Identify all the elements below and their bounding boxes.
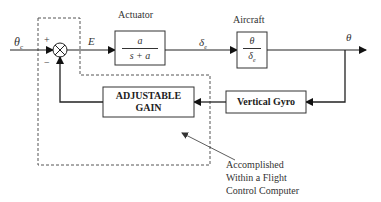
- input-theta-c-label: θc: [14, 36, 23, 51]
- aircraft-numerator: θ: [237, 36, 267, 46]
- actuator-transfer-function: a s + a: [115, 36, 165, 61]
- vertical-gyro-label: Vertical Gyro: [226, 96, 306, 108]
- actuator-title: Actuator: [118, 10, 153, 20]
- minus-sign: −: [44, 58, 50, 68]
- summing-junction: [53, 43, 67, 57]
- feedback-to-junction-line: [60, 57, 103, 102]
- output-theta-label: θ: [346, 32, 351, 43]
- plus-sign: +: [44, 35, 50, 45]
- aircraft-title: Aircraft: [233, 15, 265, 25]
- aircraft-transfer-function: θ δe: [237, 36, 267, 63]
- actuator-numerator: a: [115, 36, 165, 46]
- adjustable-gain-label: ADJUSTABLE GAIN: [103, 90, 194, 113]
- elevator-deflection-label: δe: [199, 37, 207, 50]
- error-signal-label: E: [88, 36, 95, 47]
- flight-computer-annotation: Accomplished Within a Flight Control Com…: [226, 158, 299, 197]
- actuator-denominator: s + a: [115, 51, 165, 61]
- feedback-to-gyro-line: [306, 50, 345, 102]
- aircraft-denominator: δe: [237, 51, 267, 63]
- annotation-pointer-arrow: [182, 133, 235, 160]
